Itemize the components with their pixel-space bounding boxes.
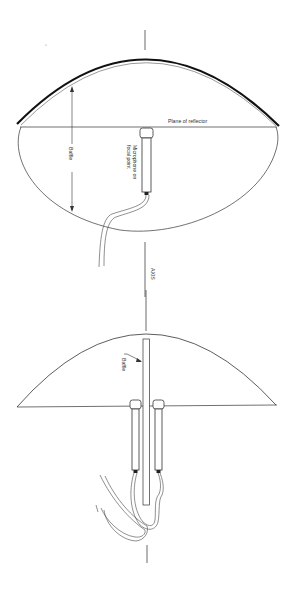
microphone-left [130,400,141,473]
cables [96,473,163,541]
plane-of-reflector-label: Plane of reflector [168,118,207,124]
axis-section: AXIS [145,242,156,331]
baffle-label-bottom: Baffle [121,358,127,371]
microphone-right [153,400,164,473]
baffle-label-top: Baffle [68,147,74,160]
reflector-dish [17,59,279,126]
reflector-diagram: Plane of reflector Baffle Microphone on … [0,0,293,594]
top-figure: Plane of reflector Baffle Microphone on … [17,30,279,267]
arrowhead-down-icon [70,206,74,212]
arrowhead-up-icon [70,86,74,92]
center-baffle [143,339,150,505]
reflector-dish-inner [21,63,276,126]
speck [45,44,46,45]
microphone-label-line2: focal point [126,145,132,169]
axis-label: AXIS [150,268,156,280]
bottom-figure: Baffle [17,334,277,563]
arrowhead-icon [136,358,142,362]
